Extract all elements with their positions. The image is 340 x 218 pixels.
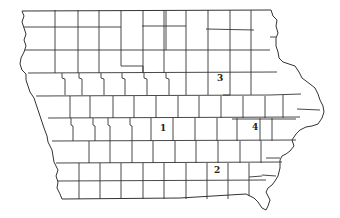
map-label-3: 3 [217,74,223,83]
iowa-county-map [0,0,340,218]
state-border [20,10,324,210]
county-lines [24,26,320,181]
county-lines-row6 [71,118,272,141]
map-label-2: 2 [214,166,220,175]
map-label-4: 4 [252,123,258,132]
county-lines-row7 [89,141,261,163]
county-lines-row5 [70,95,283,118]
map-label-1: 1 [160,124,166,133]
